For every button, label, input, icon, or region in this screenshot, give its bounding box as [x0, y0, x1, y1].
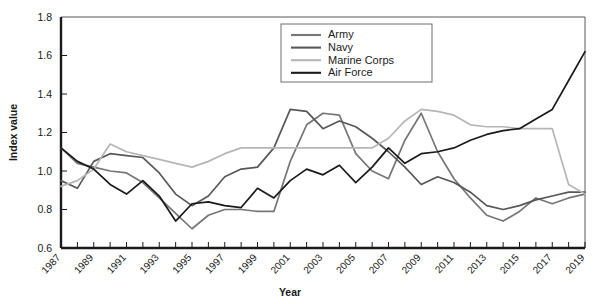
x-axis-tick-label: 2005 — [334, 252, 358, 276]
y-axis-title: Index value — [7, 104, 19, 161]
x-axis-tick-label: 1999 — [236, 252, 260, 276]
x-axis-tick-label: 2013 — [465, 252, 489, 276]
x-axis-tick-label: 2009 — [399, 252, 423, 276]
y-axis-tick-label: 1.8 — [37, 11, 52, 23]
x-axis-tick-label: 1993 — [137, 252, 161, 276]
chart-figure: 1.81.61.41.21.00.80.61987198919911993199… — [0, 0, 595, 304]
y-axis-tick-label: 0.6 — [37, 242, 52, 254]
x-axis-tick-label: 2015 — [498, 252, 522, 276]
x-axis-tick-label: 1995 — [170, 252, 194, 276]
y-axis-tick-label: 1.0 — [37, 165, 52, 177]
y-axis-tick-label: 0.8 — [37, 203, 52, 215]
y-axis-tick-label: 1.4 — [37, 88, 52, 100]
series-line-navy — [61, 109, 585, 209]
y-axis-tick-label: 1.2 — [37, 126, 52, 138]
legend-label-navy: Navy — [328, 41, 354, 53]
x-axis-tick-label: 2003 — [301, 252, 325, 276]
legend-label-air-force: Air Force — [328, 66, 373, 78]
x-axis-tick-label: 2019 — [563, 252, 587, 276]
x-axis-tick-label: 1989 — [72, 252, 96, 276]
y-axis-tick-label: 1.6 — [37, 49, 52, 61]
x-axis-tick-label: 2011 — [433, 252, 456, 276]
x-axis-tick-label: 2001 — [268, 252, 292, 276]
x-axis-tick-label: 1991 — [105, 252, 129, 276]
x-axis-tick-label: 1997 — [203, 252, 227, 276]
x-axis-tick-label: 1987 — [39, 252, 63, 276]
x-axis-tick-label: 2007 — [367, 252, 391, 276]
legend-label-marine-corps: Marine Corps — [328, 54, 395, 66]
x-axis-tick-label: 2017 — [530, 252, 554, 276]
line-chart-svg: 1.81.61.41.21.00.80.61987198919911993199… — [0, 0, 595, 304]
legend-label-army: Army — [328, 28, 354, 40]
x-axis-title: Year — [279, 286, 301, 298]
